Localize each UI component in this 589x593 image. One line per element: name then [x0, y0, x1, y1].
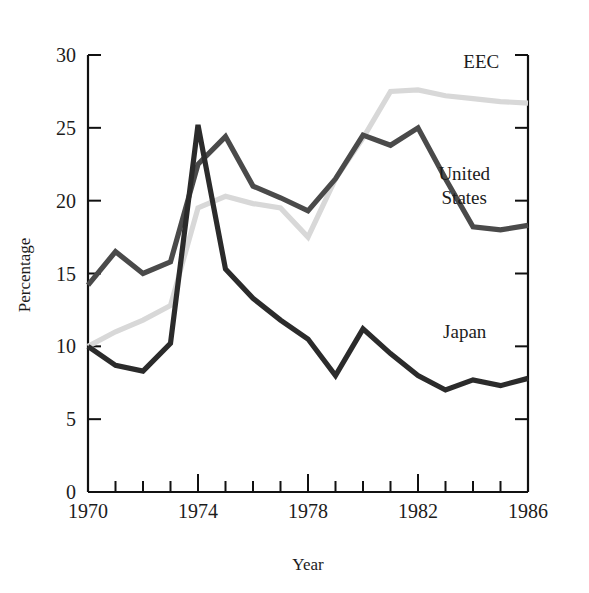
- x-axis-title: Year: [292, 555, 324, 574]
- chart-container: 051015202530 19701974197819821986 EECUni…: [0, 0, 589, 593]
- series-line-eec: [88, 90, 528, 346]
- x-axis-tick-labels: 19701974197819821986: [68, 500, 548, 522]
- x-tick-label: 1974: [178, 500, 218, 522]
- y-tick-label: 20: [56, 190, 76, 212]
- y-tick-label: 25: [56, 117, 76, 139]
- y-axis-tick-labels: 051015202530: [56, 44, 76, 503]
- line-chart: 051015202530 19701974197819821986 EECUni…: [0, 0, 589, 593]
- y-tick-label: 30: [56, 44, 76, 66]
- data-series-group: [88, 90, 528, 390]
- series-label-japan: Japan: [443, 321, 487, 342]
- y-tick-label: 5: [66, 408, 76, 430]
- y-tick-label: 15: [56, 263, 76, 285]
- y-tick-label: 10: [56, 335, 76, 357]
- series-label-eec: EEC: [463, 51, 499, 72]
- x-tick-label: 1978: [288, 500, 328, 522]
- series-label-united-states: UnitedStates: [438, 163, 490, 208]
- x-tick-label: 1982: [398, 500, 438, 522]
- x-axis-ticks: [88, 55, 528, 492]
- x-tick-label: 1986: [508, 500, 548, 522]
- axes: [88, 55, 528, 492]
- x-tick-label: 1970: [68, 500, 108, 522]
- y-axis-title: Percentage: [15, 238, 34, 313]
